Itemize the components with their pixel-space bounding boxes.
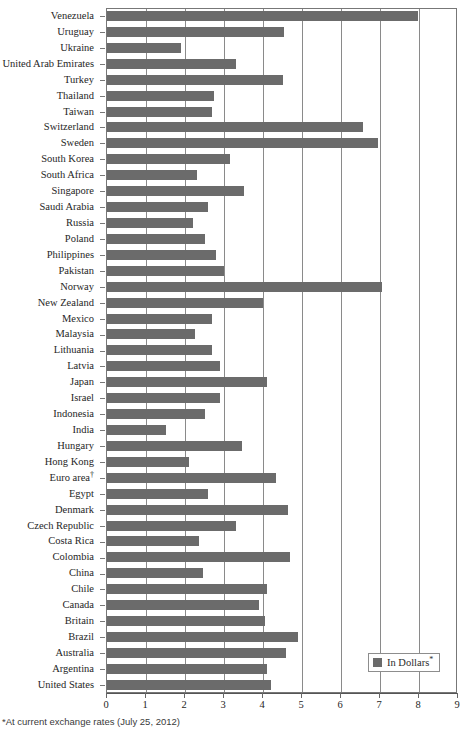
y-axis-tick [100,127,105,128]
x-axis-tick-label-8: 8 [408,699,428,710]
y-axis-tick [100,191,105,192]
y-axis-tick [100,175,105,176]
y-axis-tick [100,32,105,33]
bar [107,473,276,483]
y-axis-label: Euro area† [0,470,100,486]
y-axis-label: Israel [0,390,100,406]
x-axis-tick-label-7: 7 [369,699,389,710]
x-axis-tick-label-1: 1 [135,699,155,710]
x-axis-tick-label-3: 3 [213,699,233,710]
y-axis-tick [100,382,105,383]
y-axis-label: Hungary [0,438,100,454]
x-axis-line [106,693,457,694]
y-axis-tick [100,685,105,686]
y-axis-label: Poland [0,231,100,247]
y-axis-label: China [0,565,100,581]
bar [107,409,205,419]
legend[interactable]: In Dollars* [368,653,440,672]
y-axis-label: Japan [0,374,100,390]
x-axis-tick-6 [340,693,341,698]
y-axis-tick [100,223,105,224]
bar [107,632,298,642]
bar [107,170,197,180]
y-axis-label: India [0,422,100,438]
bar [107,234,205,244]
y-axis-tick [100,112,105,113]
y-axis-tick [100,430,105,431]
y-axis-label: Australia [0,645,100,661]
y-axis-label: Indonesia [0,406,100,422]
y-axis-tick [100,366,105,367]
y-axis-label: Canada [0,597,100,613]
bar [107,27,284,37]
bar-row [107,120,456,136]
y-axis-label: Denmark [0,502,100,518]
y-axis-tick [100,143,105,144]
y-axis-tick [100,462,105,463]
y-axis-tick [100,239,105,240]
y-axis-label: Malaysia [0,326,100,342]
bar-row [107,216,456,232]
y-axis-tick [100,64,105,65]
bar [107,345,212,355]
y-axis-label: Costa Rica [0,533,100,549]
bar [107,122,363,132]
x-axis-tick-7 [379,693,380,698]
bar-row [107,455,456,471]
bar-rows [107,9,456,692]
bar-row [107,296,456,312]
bar-row [107,264,456,280]
bar-row [107,184,456,200]
bar-row [107,566,456,582]
bar-row [107,503,456,519]
y-axis-tick [100,414,105,415]
bar [107,186,244,196]
bar-row [107,136,456,152]
bar [107,505,288,515]
y-axis-label: Hong Kong [0,454,100,470]
y-axis-label: Britain [0,613,100,629]
y-axis-tick [100,351,105,352]
y-axis-tick [100,255,105,256]
y-axis-label: Saudi Arabia [0,199,100,215]
bar-row [107,550,456,566]
y-axis-label: Philippines [0,247,100,263]
x-axis-tick-2 [184,693,185,698]
y-axis-labels: VenezuelaUruguayUkraineUnited Arab Emira… [0,8,100,693]
bar [107,552,290,562]
bar [107,425,166,435]
bar [107,680,271,690]
bar-row [107,519,456,535]
y-axis-label: Turkey [0,72,100,88]
bar-row [107,9,456,25]
y-axis-label: Switzerland [0,119,100,135]
bar-row [107,487,456,503]
bar-row [107,89,456,105]
x-axis-tick-4 [262,693,263,698]
bar-row [107,375,456,391]
bar [107,616,265,626]
bar-row [107,471,456,487]
y-axis-label: Argentina [0,661,100,677]
y-axis-label: Mexico [0,311,100,327]
bar-row [107,152,456,168]
x-axis-tick-label-6: 6 [330,699,350,710]
bar-row [107,630,456,646]
bar-row [107,41,456,57]
bar [107,489,208,499]
y-axis-tick [100,287,105,288]
y-axis-label: Lithuania [0,342,100,358]
bar [107,59,236,69]
y-axis-tick [100,605,105,606]
y-axis-label: Egypt [0,486,100,502]
bar [107,600,259,610]
bar-row [107,280,456,296]
y-axis-tick [100,48,105,49]
bar [107,218,193,228]
bar [107,43,181,53]
bar [107,266,224,276]
y-axis-tick [100,669,105,670]
y-axis-tick [100,207,105,208]
legend-swatch-icon [373,658,382,667]
bar [107,536,199,546]
